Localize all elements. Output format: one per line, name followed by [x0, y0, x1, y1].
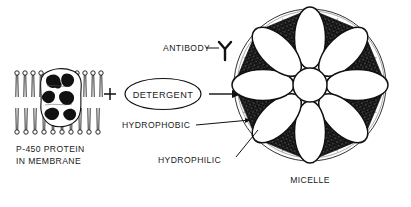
hydrophilic-label: HYDROPHILIC	[158, 155, 221, 165]
antibody-label: ANTIBODY	[163, 43, 210, 53]
p450-protein	[41, 69, 82, 127]
membrane-caption-line2: IN MEMBRANE	[16, 156, 81, 166]
detergent-label: DETERGENT	[133, 90, 194, 100]
micelle-caption: MICELLE	[290, 175, 330, 185]
micelle-center-circle	[293, 68, 327, 102]
diagram-canvas: P-450 PROTEIN IN MEMBRANE DETERGENT	[0, 0, 411, 207]
membrane-caption-line1: P-450 PROTEIN	[16, 144, 85, 154]
detergent-node: DETERGENT	[125, 79, 201, 110]
hydrophobic-label: HYDROPHOBIC	[122, 120, 190, 130]
